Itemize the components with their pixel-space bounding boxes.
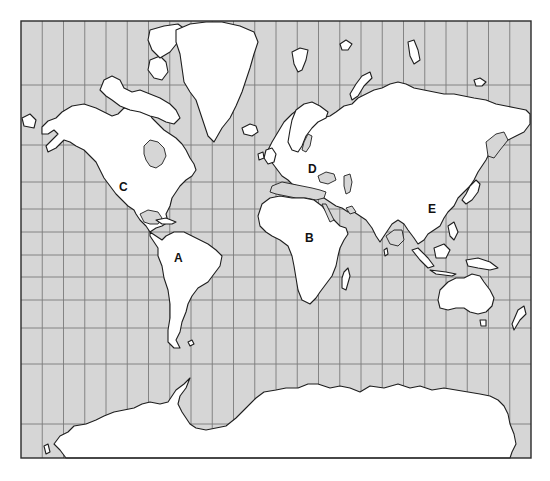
sri-lanka (384, 248, 388, 256)
label-a: A (174, 252, 183, 264)
label-c: C (119, 181, 128, 193)
label-b: B (305, 232, 314, 244)
great-britain (264, 148, 276, 164)
label-d: D (308, 163, 317, 175)
world-map (0, 0, 550, 481)
label-e: E (428, 203, 436, 215)
ireland (258, 152, 264, 160)
tasmania (480, 320, 486, 326)
